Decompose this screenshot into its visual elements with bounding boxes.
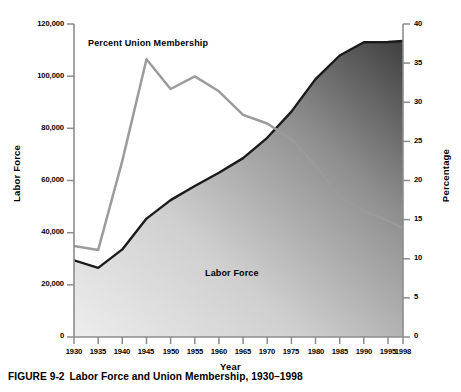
x-tick-label-1998: 1998: [387, 347, 419, 356]
y-left-tick-label-120000: 120,000: [6, 19, 64, 28]
y-right-tick-label-35: 35: [414, 58, 440, 67]
y-left-tick-label-80000: 80,000: [6, 123, 64, 132]
y-axis-left-title: Labor Force: [11, 134, 22, 214]
y-axis-right-title: Percentage: [440, 136, 451, 216]
y-right-tick-label-10: 10: [414, 253, 440, 262]
y-left-tick-label-20000: 20,000: [6, 279, 64, 288]
y-axis-right-ticks: [403, 24, 410, 337]
y-right-tick-label-20: 20: [414, 175, 440, 184]
labor-force-area: [74, 41, 403, 337]
y-right-tick-label-0: 0: [414, 331, 440, 340]
y-right-tick-label-5: 5: [414, 292, 440, 301]
y-right-tick-label-25: 25: [414, 136, 440, 145]
y-left-tick-label-40000: 40,000: [6, 227, 64, 236]
y-left-tick-label-100000: 100,000: [6, 71, 64, 80]
figure-caption: FIGURE 9-2Labor Force and Union Membersh…: [8, 371, 458, 382]
figure-number: FIGURE 9-2: [8, 371, 65, 382]
y-right-tick-label-40: 40: [414, 19, 440, 28]
figure-container: 0 20,000 40,000 60,000 80,000 100,000 12…: [0, 0, 461, 392]
y-right-tick-label-15: 15: [414, 214, 440, 223]
y-axis-left-ticks: [67, 24, 74, 337]
x-axis-ticks: [74, 337, 403, 344]
series-label-union-membership: Percent Union Membership: [88, 38, 208, 48]
chart-plot-area: [0, 0, 461, 392]
y-left-tick-label-0: 0: [6, 331, 64, 340]
series-label-labor-force: Labor Force: [205, 268, 259, 278]
y-right-tick-label-30: 30: [414, 97, 440, 106]
figure-caption-text: Labor Force and Union Membership, 1930–1…: [70, 371, 303, 382]
